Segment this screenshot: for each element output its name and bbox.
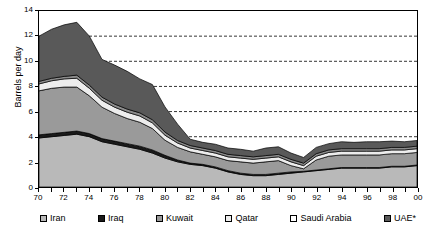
x-tick-label: 90 (282, 193, 300, 202)
x-tick-mark (51, 188, 52, 192)
x-tick-mark (266, 188, 267, 192)
x-tick-mark (291, 188, 292, 192)
legend-swatch-icon (156, 215, 163, 222)
y-tick-label: 14 (13, 6, 33, 14)
x-tick-label: 78 (130, 193, 148, 202)
legend-item-iran[interactable]: Iran (40, 214, 66, 223)
x-tick-mark (329, 188, 330, 192)
y-tick-label: 2 (13, 159, 33, 167)
x-tick-mark (165, 188, 166, 192)
x-tick-mark (152, 188, 153, 192)
x-tick-label: 94 (333, 193, 351, 202)
legend-label: Iraq (108, 214, 124, 223)
legend-swatch-icon (225, 215, 232, 222)
chart-legend: IranIraqKuwaitQatarSaudi ArabiaUAE* (40, 210, 416, 226)
legend-label: Kuwait (166, 214, 193, 223)
legend-item-qatar[interactable]: Qatar (225, 214, 258, 223)
x-tick-mark (342, 188, 343, 192)
x-tick-label: 98 (384, 193, 402, 202)
legend-label: Iran (50, 214, 66, 223)
x-tick-mark (418, 188, 419, 192)
x-tick-mark (380, 188, 381, 192)
legend-label: Saudi Arabia (300, 214, 351, 223)
y-tick-label: 0 (13, 184, 33, 192)
y-tick-mark (35, 188, 38, 189)
x-tick-mark (405, 188, 406, 192)
legend-label: UAE* (394, 214, 416, 223)
x-tick-label: 92 (308, 193, 326, 202)
x-tick-mark (215, 188, 216, 192)
legend-item-uae-[interactable]: UAE* (384, 214, 416, 223)
x-tick-mark (228, 188, 229, 192)
x-tick-mark (139, 188, 140, 192)
x-tick-mark (279, 188, 280, 192)
x-tick-label: 76 (105, 193, 123, 202)
x-tick-label: 74 (80, 193, 98, 202)
x-tick-mark (190, 188, 191, 192)
x-tick-label: 86 (232, 193, 250, 202)
x-tick-mark (203, 188, 204, 192)
legend-swatch-icon (98, 215, 105, 222)
x-tick-mark (177, 188, 178, 192)
x-tick-mark (367, 188, 368, 192)
plot-area (38, 10, 418, 188)
x-tick-mark (241, 188, 242, 192)
legend-item-saudi-arabia[interactable]: Saudi Arabia (290, 214, 351, 223)
x-tick-mark (317, 188, 318, 192)
x-tick-mark (393, 188, 394, 192)
stacked-area-chart: Barrels per day 02468101214 707274767880… (0, 0, 432, 234)
x-tick-mark (63, 188, 64, 192)
x-tick-label: 00 (409, 193, 427, 202)
x-tick-label: 88 (257, 193, 275, 202)
x-tick-label: 80 (156, 193, 174, 202)
legend-item-iraq[interactable]: Iraq (98, 214, 124, 223)
legend-swatch-icon (40, 215, 47, 222)
x-tick-mark (38, 188, 39, 192)
x-tick-mark (304, 188, 305, 192)
x-tick-label: 70 (29, 193, 47, 202)
legend-label: Qatar (235, 214, 258, 223)
plot-svg (39, 11, 417, 187)
legend-swatch-icon (384, 215, 391, 222)
legend-swatch-icon (290, 215, 297, 222)
x-tick-mark (355, 188, 356, 192)
y-axis-title: Barrels per day (13, 17, 23, 137)
x-tick-label: 96 (358, 193, 376, 202)
x-tick-label: 72 (54, 193, 72, 202)
x-tick-mark (76, 188, 77, 192)
x-tick-mark (127, 188, 128, 192)
x-tick-mark (89, 188, 90, 192)
legend-item-kuwait[interactable]: Kuwait (156, 214, 193, 223)
x-tick-mark (114, 188, 115, 192)
x-tick-mark (253, 188, 254, 192)
x-tick-mark (101, 188, 102, 192)
x-tick-label: 84 (206, 193, 224, 202)
x-tick-label: 82 (181, 193, 199, 202)
